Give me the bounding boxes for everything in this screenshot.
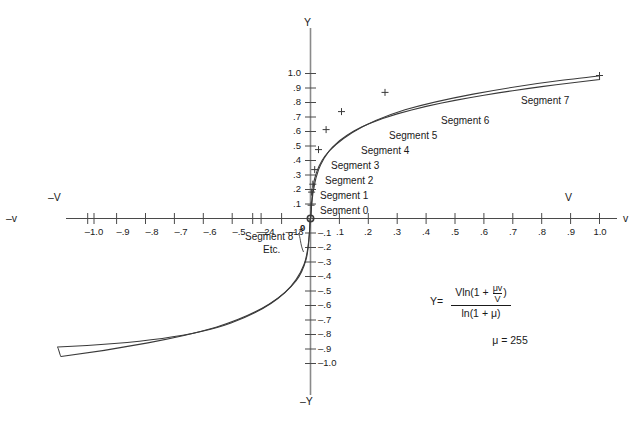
segment-label-0: Segment 0: [320, 206, 368, 216]
equation-numerator-suffix: ): [503, 286, 507, 298]
x-tick-label: .9: [558, 227, 584, 237]
y-tick-label: .6: [268, 126, 301, 136]
x-axis-left-cap-label: –V: [48, 192, 61, 203]
segment-breakpoint-markers: [308, 72, 603, 209]
mu-law-curve-figure: Y –Y v –v V –V 0 –1.0 –.9 –.8 –.7 –.6 –.…: [0, 0, 644, 428]
x-axis-right-label: v: [623, 213, 628, 224]
equation-inner-fraction: μvV: [493, 283, 503, 305]
segment-label-3: Segment 3: [331, 161, 379, 171]
equation-row: Y= Vln(1 + μvV) ln(1 + μ): [430, 282, 620, 320]
y-tick-label: –.2: [318, 242, 331, 252]
x-tick-label: .3: [384, 227, 410, 237]
segment-label-4: Segment 4: [361, 146, 409, 156]
y-tick-label: .7: [268, 112, 301, 122]
y-tick-label: –.5: [318, 286, 331, 296]
x-tick-label: .7: [500, 227, 526, 237]
y-tick-label: .1: [268, 199, 301, 209]
y-axis-bottom-label: –Y: [300, 396, 313, 407]
y-tick-label: .4: [268, 155, 301, 165]
y-tick-label: –.7: [318, 315, 331, 325]
y-tick-label: –.3: [318, 257, 331, 267]
equation-fraction: Vln(1 + μvV) ln(1 + μ): [451, 282, 511, 320]
mu-value-label: μ = 255: [430, 334, 620, 346]
x-axis-left-label: –v: [6, 213, 17, 224]
segment-label-7: Segment 7: [521, 96, 569, 106]
equation-denominator: ln(1 + μ): [457, 306, 504, 320]
x-tick-label: .8: [529, 227, 555, 237]
x-tick-label: .5: [442, 227, 468, 237]
equation-numerator-prefix: Vln(1 +: [455, 286, 491, 298]
y-tick-label: –1.0: [318, 358, 337, 368]
y-tick-label: .5: [268, 141, 301, 151]
y-tick-label: 1.0: [268, 68, 301, 78]
y-tick-label: –.9: [318, 344, 331, 354]
x-axis-right-cap-label: V: [565, 192, 572, 203]
x-tick-label: 1.0: [585, 227, 615, 237]
x-tick-label: .4: [413, 227, 439, 237]
segment-label-6: Segment 6: [441, 116, 489, 126]
y-tick-label: .2: [268, 184, 301, 194]
segment-label-2: Segment 2: [325, 176, 373, 186]
equation-lhs: Y=: [430, 295, 451, 307]
segment-label-8: Segment 8: [245, 232, 293, 242]
y-axis-top-label: Y: [304, 17, 311, 28]
equation-inner-numerator: μv: [493, 283, 503, 293]
y-tick-label: –.4: [318, 271, 331, 281]
y-tick-label: .8: [268, 97, 301, 107]
segment-label-1: Segment 1: [320, 191, 368, 201]
x-tick-label: .6: [471, 227, 497, 237]
segment-label-etc: Etc.: [263, 245, 280, 255]
y-tick-label: –.1: [318, 228, 331, 238]
y-tick-label: –.6: [318, 300, 331, 310]
segment-label-5: Segment 5: [389, 131, 437, 141]
equation-numerator: Vln(1 + μvV): [451, 282, 511, 305]
y-tick-label: .3: [268, 170, 301, 180]
y-tick-label: –.8: [318, 329, 331, 339]
x-tick-label: .2: [355, 227, 381, 237]
y-tick-label: .9: [268, 83, 301, 93]
equation-block: Y= Vln(1 + μvV) ln(1 + μ) μ = 255: [430, 282, 620, 346]
equation-inner-denominator: V: [494, 294, 500, 304]
